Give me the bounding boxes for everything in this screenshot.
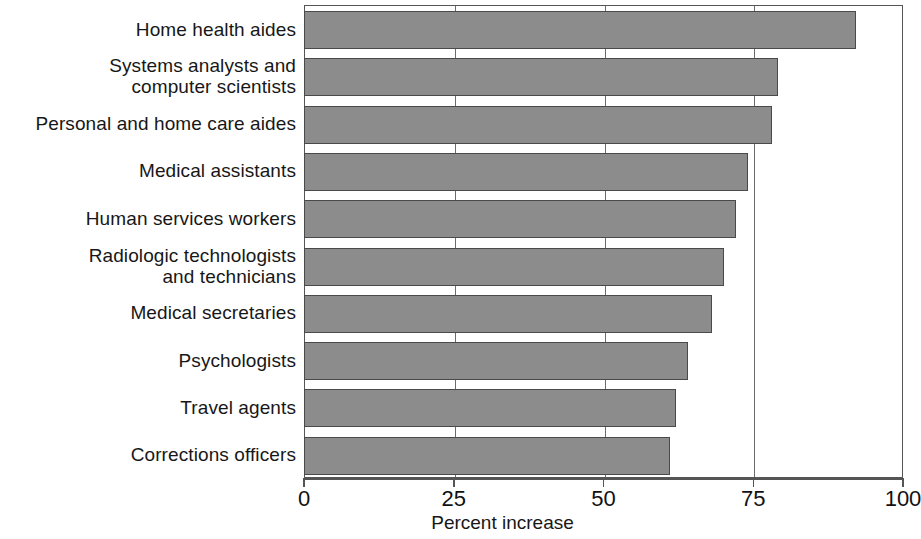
bar xyxy=(304,342,688,380)
bar xyxy=(304,295,712,333)
bar xyxy=(304,106,772,144)
category-label: Psychologists xyxy=(0,350,296,371)
bar-row xyxy=(305,11,904,49)
x-tick-label-100: 100 xyxy=(885,486,921,512)
bar-row xyxy=(305,389,904,427)
bar-row xyxy=(305,153,904,191)
category-label: Systems analysts and computer scientists xyxy=(0,55,296,97)
category-label: Radiologic technologists and technicians xyxy=(0,245,296,287)
bar-row xyxy=(305,58,904,96)
x-tick-label-25: 25 xyxy=(442,486,466,512)
bar xyxy=(304,389,676,427)
bar-row xyxy=(305,437,904,475)
bar xyxy=(304,437,670,475)
category-label: Corrections officers xyxy=(0,444,296,465)
x-tick-label-75: 75 xyxy=(741,486,765,512)
bar-row xyxy=(305,295,904,333)
bar-row xyxy=(305,248,904,286)
bar xyxy=(304,153,748,191)
category-label: Medical secretaries xyxy=(0,302,296,323)
bar xyxy=(304,11,856,49)
category-label: Personal and home care aides xyxy=(0,113,296,134)
bar xyxy=(304,248,724,286)
x-axis-title: Percent increase xyxy=(0,512,919,534)
category-label: Home health aides xyxy=(0,19,296,40)
category-axis-labels: Home health aidesSystems analysts and co… xyxy=(0,5,296,478)
bar-row xyxy=(305,342,904,380)
category-label: Human services workers xyxy=(0,208,296,229)
bar-row xyxy=(305,200,904,238)
bar xyxy=(304,58,778,96)
x-tick-label-50: 50 xyxy=(591,486,615,512)
category-label: Travel agents xyxy=(0,397,296,418)
x-tick-label-0: 0 xyxy=(298,486,310,512)
bar-row xyxy=(305,106,904,144)
category-label: Medical assistants xyxy=(0,160,296,181)
plot-area xyxy=(304,5,903,478)
x-axis-title-text: Percent increase xyxy=(431,512,574,534)
bar xyxy=(304,200,736,238)
